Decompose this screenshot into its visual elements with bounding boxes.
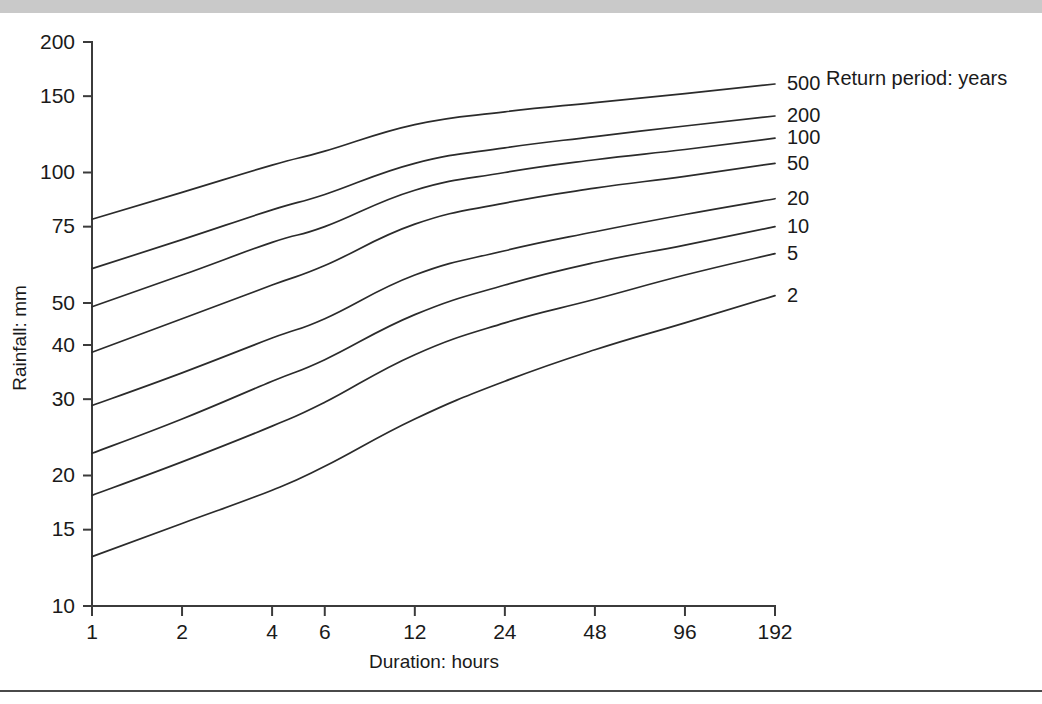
x-axis-tick-label: 6 [319,620,331,643]
series-label-10: 10 [787,215,809,237]
y-axis-tick-label: 200 [40,30,75,53]
y-axis-tick-label: 20 [52,463,75,486]
x-axis-tick-label: 48 [583,620,606,643]
curve-series-5 [92,254,775,496]
series-label-500: 500 [787,72,820,94]
chart-svg: 10152030405075100150200 124612244896192 … [0,13,1042,690]
y-axis-tick-label: 100 [40,160,75,183]
x-axis-tick-label: 12 [403,620,426,643]
y-axis-tick-label: 150 [40,84,75,107]
y-axis: 10152030405075100150200 [40,30,92,617]
series-label-100: 100 [787,126,820,148]
x-axis: 124612244896192 [86,606,792,643]
y-axis-tick-label: 30 [52,387,75,410]
curve-series-2 [92,296,775,557]
rainfall-duration-frequency-chart: 10152030405075100150200 124612244896192 … [0,13,1042,690]
x-axis-tick-label: 1 [86,620,98,643]
legend-title: Return period: years [826,67,1007,89]
y-axis-tick-label: 10 [52,594,75,617]
series-label-2: 2 [787,284,798,306]
figure-page: 10152030405075100150200 124612244896192 … [0,0,1042,704]
x-axis-title: Duration: hours [369,651,499,672]
y-axis-tick-label: 75 [52,214,75,237]
series-label-200: 200 [787,104,820,126]
y-axis-tick-label: 15 [52,517,75,540]
x-axis-tick-label: 4 [266,620,278,643]
series-label-5: 5 [787,242,798,264]
curve-series-10 [92,227,775,454]
curve-series-20 [92,199,775,406]
curve-series-50 [92,163,775,352]
bottom-divider [0,690,1042,692]
x-axis-tick-label: 96 [673,620,696,643]
x-axis-tick-label: 2 [176,620,188,643]
series-label-group: 50020010050201052 [787,72,820,306]
series-label-50: 50 [787,152,809,174]
x-axis-tick-label: 24 [493,620,517,643]
y-axis-tick-label: 50 [52,291,75,314]
curve-series-200 [92,116,775,269]
x-axis-tick-label: 192 [757,620,792,643]
top-gray-band [0,0,1042,13]
y-axis-title: Rainfall: mm [9,285,30,391]
series-label-20: 20 [787,187,809,209]
curve-series-group [92,84,775,557]
curve-series-100 [92,138,775,307]
y-axis-tick-label: 40 [52,333,75,356]
